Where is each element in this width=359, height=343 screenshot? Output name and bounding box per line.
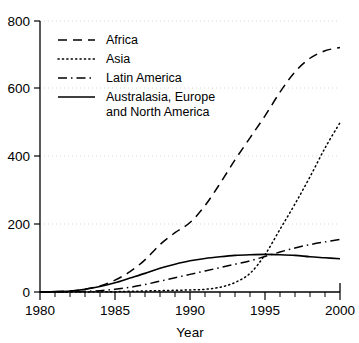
y-tick-label-800: 800 bbox=[7, 14, 30, 29]
legend-label-latin-america: Latin America bbox=[106, 71, 182, 85]
legend-label-africa: Africa bbox=[106, 33, 138, 47]
legend-label-asia: Asia bbox=[106, 52, 130, 66]
series-line-australasia-europe-north-america bbox=[40, 254, 340, 292]
series-group bbox=[40, 47, 340, 292]
y-tick-label-200: 200 bbox=[7, 217, 30, 232]
y-tick-label-0: 0 bbox=[22, 285, 30, 300]
gridlines bbox=[40, 21, 340, 224]
y-axis-ticks bbox=[34, 21, 40, 292]
x-tick-label-1985: 1985 bbox=[100, 303, 130, 318]
axes bbox=[40, 21, 340, 292]
x-tick-label-1980: 1980 bbox=[25, 303, 55, 318]
legend-label-australasia-line2: and North America bbox=[106, 105, 210, 119]
x-tick-label-1990: 1990 bbox=[175, 303, 205, 318]
series-line-latin-america bbox=[40, 239, 340, 292]
line-chart: 800 600 400 200 0 1980 1985 1990 1995 20… bbox=[0, 0, 359, 343]
series-line-asia bbox=[40, 123, 340, 292]
x-tick-label-2000: 2000 bbox=[325, 303, 355, 318]
x-axis-title: Year bbox=[176, 325, 204, 340]
legend-label-australasia-line1: Australasia, Europe bbox=[106, 90, 215, 104]
legend: Africa Asia Latin America Australasia, E… bbox=[58, 33, 215, 119]
y-tick-label-600: 600 bbox=[7, 81, 30, 96]
chart-container: 800 600 400 200 0 1980 1985 1990 1995 20… bbox=[0, 0, 359, 343]
x-tick-label-1995: 1995 bbox=[250, 303, 280, 318]
y-tick-label-400: 400 bbox=[7, 149, 30, 164]
